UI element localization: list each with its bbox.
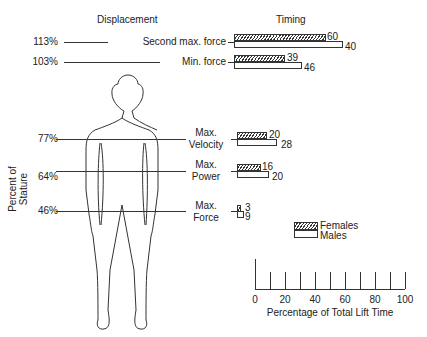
label-max-power-1: Max. — [186, 159, 226, 171]
x-tick-label: 0 — [245, 294, 265, 306]
legend-swatch-female — [294, 222, 318, 230]
x-axis-tick — [270, 272, 271, 289]
label-min-force: Min. force — [160, 56, 226, 68]
x-tick-label: 20 — [275, 294, 295, 306]
x-tick-label: 80 — [365, 294, 385, 306]
value-male-min-force: 46 — [304, 62, 315, 74]
stature-77: 77% — [28, 133, 58, 145]
x-axis-tick — [315, 272, 316, 289]
bar-female-min-force — [234, 55, 285, 62]
line-77 — [56, 139, 186, 140]
value-male-max-force: 9 — [245, 211, 251, 223]
x-tick-label: 100 — [393, 294, 417, 306]
x-axis-tick-0 — [255, 259, 256, 289]
stature-103: 103% — [28, 56, 58, 68]
legend-label-male: Males — [320, 230, 347, 242]
label-max-velocity-1: Max. — [186, 127, 226, 139]
line-113 — [64, 42, 108, 43]
x-axis-tick — [390, 272, 391, 289]
bar-male-second-max-force — [234, 41, 343, 48]
bar-male-max-force — [237, 211, 244, 218]
label-max-force-1: Max. — [186, 200, 226, 212]
line-103 — [64, 62, 160, 63]
x-tick-label: 40 — [305, 294, 325, 306]
x-axis-tick — [360, 272, 361, 289]
x-axis-line — [255, 289, 405, 290]
line-46 — [56, 211, 186, 212]
stature-46: 46% — [28, 205, 58, 217]
x-axis-tick — [330, 272, 331, 289]
stature-113: 113% — [28, 36, 58, 48]
line-64 — [56, 171, 186, 172]
x-tick-label: 60 — [335, 294, 355, 306]
x-axis-tick — [375, 272, 376, 289]
label-max-force-2: Force — [186, 212, 226, 224]
bar-female-second-max-force — [234, 34, 326, 41]
label-max-velocity-2: Velocity — [186, 139, 226, 151]
value-male-max-velocity: 28 — [281, 139, 292, 151]
x-axis-tick — [285, 272, 286, 289]
x-axis-tick — [300, 272, 301, 289]
bar-female-max-velocity — [237, 132, 267, 139]
label-max-power-2: Power — [186, 171, 226, 183]
legend-swatch-male — [294, 230, 318, 238]
stature-64: 64% — [28, 171, 58, 183]
bar-male-max-velocity — [237, 139, 277, 146]
bar-male-max-power — [237, 171, 269, 178]
value-male-second-max-force: 40 — [345, 41, 356, 53]
bar-female-max-power — [237, 164, 261, 171]
x-axis-tick — [345, 272, 346, 289]
value-male-max-power: 20 — [272, 171, 283, 183]
label-second-max-force: Second max. force — [118, 36, 226, 48]
bar-male-min-force — [234, 62, 302, 69]
x-axis-tick — [405, 272, 406, 289]
x-axis-label: Percentage of Total Lift Time — [245, 307, 415, 319]
